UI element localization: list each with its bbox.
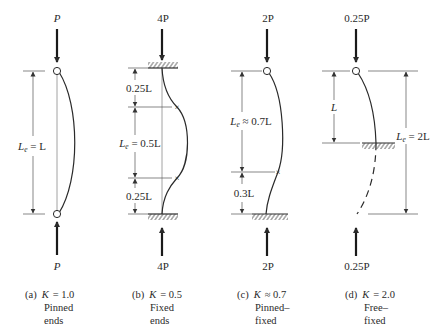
panel-d: 0.25P 0.25P L Le = 2L (d)K= 2.0 Free– fi… [322,12,430,326]
caption-line-1: (b)K= 0.5 [132,289,182,301]
effective-length-label: Le = 2L [395,130,430,144]
bottom-load-label: P [53,260,61,272]
bottom-load-label: 0.25P [344,260,369,272]
caption-line-1: (d)K= 2.0 [345,289,395,301]
panel-b: 4P × × 4P 0.25L Le = 0.5L 0.25L (b)K= 0.… [118,12,187,326]
caption-line-1: (c)K≈ 0.7 [237,289,286,301]
bottom-pin-support [53,210,60,217]
caption-line-3: fixed [364,315,386,326]
column-buckling-figure: P P Le = L (a)K= 1.0 Pinned ends 4P × × … [0,0,439,332]
effective-length-label: Le = L [17,140,46,154]
effective-length-label: Le = 0.5L [118,137,161,151]
caption-line-2: Pinned– [255,302,290,313]
segment-length-label: 0.25L [126,190,152,202]
buckled-shape [266,73,283,214]
free-end-marker [352,67,359,74]
bottom-fixed-support-hatch [148,214,178,220]
caption-line-3: fixed [255,315,277,326]
top-pin-support [263,67,270,74]
caption-line-3: ends [150,315,169,326]
segment-length-label: 0.3L [234,187,255,199]
caption-line-2: Free– [364,302,389,313]
top-load-label: 0.25P [344,12,369,24]
panel-a: P P Le = L (a)K= 1.0 Pinned ends [17,12,75,326]
bottom-fixed-support-hatch [252,214,288,220]
top-load-label: P [53,12,61,24]
caption-line-2: Pinned [44,302,74,313]
caption-line-2: Fixed [150,302,175,313]
caption-line-3: ends [44,315,63,326]
top-load-label: 2P [262,12,274,24]
inflection-point-marker: × [174,173,179,183]
caption-line-1: (a)K= 1.0 [25,289,74,301]
buckled-shape [358,73,376,143]
inflection-point-marker: × [275,167,280,177]
column-length-label: L [330,101,337,113]
bottom-load-label: 2P [262,260,274,272]
bottom-load-label: 4P [157,260,169,272]
buckled-shape [162,68,188,214]
effective-length-label: Le ≈ 0.7L [229,115,272,129]
segment-length-label: 0.25L [126,82,152,94]
top-fixed-support-hatch [148,62,178,68]
top-load-label: 4P [157,12,169,24]
top-pin-support [53,67,60,74]
fixed-support-hatch [362,143,395,149]
mirrored-buckled-shape [357,143,376,214]
buckled-shape [59,72,75,213]
panel-c: 2P × 2P Le ≈ 0.7L 0.3L (c)K≈ 0.7 Pinned–… [229,12,290,326]
inflection-point-marker: × [174,102,179,112]
